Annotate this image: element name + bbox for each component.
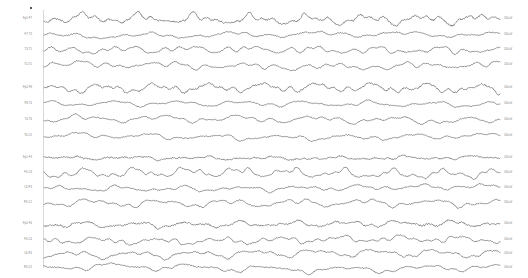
eeg-channel-row[interactable]: F3-C3100 uV [0, 165, 528, 181]
channel-trace [44, 216, 500, 232]
channel-label: F8-T4 [2, 102, 32, 105]
channel-label: Fp1-F3 [2, 156, 32, 159]
channel-scale-label: 100 uV [504, 156, 526, 159]
channel-label: F4-C4 [2, 238, 32, 241]
channel-label: P3-O1 [2, 201, 32, 204]
channel-label: C4-P4 [2, 252, 32, 255]
channel-label: T5-O1 [2, 63, 32, 66]
channel-scale-label: 100 uV [504, 171, 526, 174]
eeg-channel-row[interactable]: T4-T6100 uV [0, 112, 528, 128]
eeg-channel-row[interactable]: P3-O1100 uV [0, 195, 528, 211]
channel-scale-label: 100 uV [504, 33, 526, 36]
eeg-channel-row[interactable]: C3-P3100 uV [0, 180, 528, 196]
channel-scale-label: 100 uV [504, 201, 526, 204]
channel-label: F7-T3 [2, 33, 32, 36]
eeg-channel-row[interactable]: F8-T4100 uV [0, 96, 528, 112]
channel-trace [44, 128, 500, 144]
channel-scale-label: 100 uV [504, 63, 526, 66]
channel-trace [44, 150, 500, 166]
channel-label: T6-O2 [2, 134, 32, 137]
channel-trace [44, 96, 500, 112]
eeg-channel-row[interactable]: Fp2-F8100 uV [0, 80, 528, 96]
channel-trace [44, 180, 500, 196]
channel-trace [44, 112, 500, 128]
eeg-viewer: Fp1-F7100 uVF7-T3100 uVT3-T5100 uVT5-O11… [0, 0, 528, 278]
channel-trace [44, 57, 500, 73]
eeg-channel-row[interactable]: Fp2-F4100 uV [0, 216, 528, 232]
channel-label: C3-P3 [2, 186, 32, 189]
channel-scale-label: 100 uV [504, 118, 526, 121]
channel-trace [44, 42, 500, 58]
channel-scale-label: 100 uV [504, 102, 526, 105]
channel-label: F3-C3 [2, 171, 32, 174]
channel-scale-label: 100 uV [504, 252, 526, 255]
channel-label: Fp1-F7 [2, 17, 32, 20]
channel-label: Fp2-F4 [2, 222, 32, 225]
channel-trace [44, 260, 500, 276]
eeg-channel-row[interactable]: T3-T5100 uV [0, 42, 528, 58]
channel-trace [44, 80, 500, 96]
eeg-channel-row[interactable]: F7-T3100 uV [0, 27, 528, 43]
channel-scale-label: 100 uV [504, 222, 526, 225]
channel-label: P4-O2 [2, 266, 32, 269]
eeg-channel-row[interactable]: P4-O2100 uV [0, 260, 528, 276]
channel-scale-label: 100 uV [504, 238, 526, 241]
channel-scale-label: 100 uV [504, 266, 526, 269]
event-marker [30, 7, 32, 9]
eeg-channel-row[interactable]: Fp1-F7100 uV [0, 11, 528, 27]
channel-label: Fp2-F8 [2, 86, 32, 89]
channel-label: T3-T5 [2, 48, 32, 51]
channel-scale-label: 100 uV [504, 134, 526, 137]
channel-scale-label: 100 uV [504, 48, 526, 51]
eeg-channel-row[interactable]: T6-O2100 uV [0, 128, 528, 144]
eeg-channel-row[interactable]: T5-O1100 uV [0, 57, 528, 73]
channel-scale-label: 100 uV [504, 186, 526, 189]
channel-scale-label: 100 uV [504, 86, 526, 89]
channel-trace [44, 165, 500, 181]
channel-trace [44, 27, 500, 43]
eeg-channel-row[interactable]: Fp1-F3100 uV [0, 150, 528, 166]
channel-scale-label: 100 uV [504, 17, 526, 20]
channel-label: T4-T6 [2, 118, 32, 121]
channel-trace [44, 195, 500, 211]
channel-trace [44, 11, 500, 27]
